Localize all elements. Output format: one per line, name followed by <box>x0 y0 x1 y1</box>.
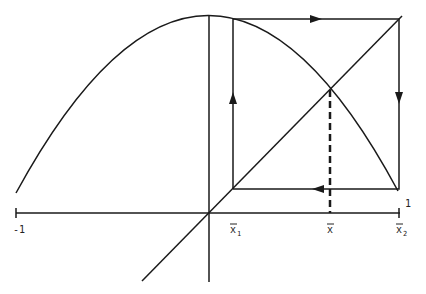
label-xbar: x <box>327 224 333 235</box>
label-x1-subscript: 1 <box>237 230 241 238</box>
cobweb-diagram: -1 1 x 1 x x 2 <box>0 0 426 294</box>
parabola-curve <box>16 15 398 193</box>
arrow-left-icon <box>312 185 324 193</box>
label-x1: x <box>230 224 236 235</box>
arrow-down-icon <box>395 92 403 104</box>
label-x2: x <box>396 224 402 235</box>
identity-diagonal <box>142 16 402 281</box>
arrow-right-icon <box>310 15 322 23</box>
label-minus-one: -1 <box>13 224 25 235</box>
arrow-up-icon <box>229 92 237 104</box>
label-one: 1 <box>405 198 411 209</box>
label-x2-subscript: 2 <box>403 230 407 238</box>
